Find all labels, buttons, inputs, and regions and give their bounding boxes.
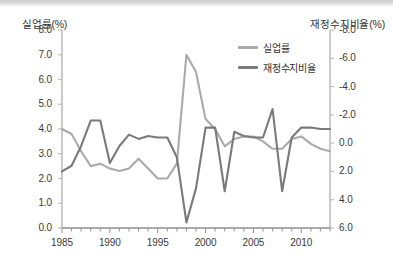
right-tick-label: -2.0 — [339, 109, 365, 120]
legend-swatch-icon — [238, 66, 258, 69]
legend-swatch-icon — [238, 46, 258, 49]
right-tick-label: 6.0 — [339, 222, 365, 233]
dual-axis-line-chart: 실업률(%) 재정수지비율(%) 8.07.06.05.04.03.02.01.… — [0, 0, 393, 265]
left-tick-label: 0.0 — [26, 222, 52, 233]
right-tick-label: -8.0 — [339, 24, 365, 35]
chart-legend: 실업률재정수지비율 — [238, 40, 316, 75]
left-tick-label: 5.0 — [26, 98, 52, 109]
left-tick-label: 2.0 — [26, 173, 52, 184]
right-tick-label: 4.0 — [339, 194, 365, 205]
left-tick-label: 4.0 — [26, 123, 52, 134]
left-tick-label: 7.0 — [26, 49, 52, 60]
x-tick-label: 1995 — [138, 237, 178, 248]
x-tick-label: 2010 — [281, 237, 321, 248]
plot-area — [0, 0, 393, 265]
series-lines — [62, 55, 330, 223]
right-tick-label: 2.0 — [339, 165, 365, 176]
right-tick-label: -4.0 — [339, 81, 365, 92]
left-tick-label: 1.0 — [26, 197, 52, 208]
right-tick-label: 0.0 — [339, 137, 365, 148]
left-tick-label: 6.0 — [26, 74, 52, 85]
x-tick-label: 2005 — [233, 237, 273, 248]
legend-item: 재정수지비율 — [238, 60, 316, 75]
x-tick-label: 1990 — [90, 237, 130, 248]
legend-item: 실업률 — [238, 40, 316, 55]
x-tick-label: 1985 — [42, 237, 82, 248]
left-tick-label: 8.0 — [26, 24, 52, 35]
right-tick-label: -6.0 — [339, 52, 365, 63]
legend-label: 재정수지비율 — [263, 60, 316, 75]
left-tick-label: 3.0 — [26, 148, 52, 159]
x-tick-label: 2000 — [186, 237, 226, 248]
legend-label: 실업률 — [263, 40, 289, 55]
